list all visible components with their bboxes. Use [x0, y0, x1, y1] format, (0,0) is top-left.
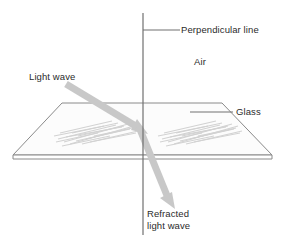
label-refracted-light-wave: Refracted light wave — [147, 208, 190, 231]
label-light-wave: Light wave — [29, 71, 75, 83]
refraction-diagram: Perpendicular line Air Glass Light wave … — [0, 0, 286, 248]
label-perpendicular-line: Perpendicular line — [181, 24, 259, 36]
label-air: Air — [194, 56, 206, 68]
diagram-canvas — [0, 0, 286, 248]
label-glass: Glass — [236, 106, 261, 118]
